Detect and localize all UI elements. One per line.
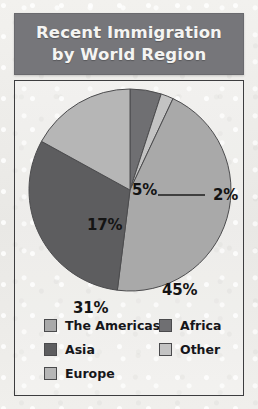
legend-swatch-africa bbox=[159, 319, 172, 332]
legend-column-right: Africa Other bbox=[159, 313, 221, 361]
legend-label-other: Other bbox=[180, 342, 220, 357]
legend-swatch-the-americas bbox=[44, 319, 57, 332]
legend-label-the-americas: The Americas bbox=[65, 318, 160, 333]
legend-label-asia: Asia bbox=[65, 342, 95, 357]
pie-svg bbox=[15, 85, 245, 301]
legend-item-europe[interactable]: Europe bbox=[44, 361, 160, 385]
legend-column-left: The Americas Asia Europe bbox=[44, 313, 160, 385]
pie-area: 45% 31% 17% 5% 2% bbox=[15, 85, 245, 301]
pie-slices bbox=[29, 89, 231, 291]
legend-item-africa[interactable]: Africa bbox=[159, 313, 221, 337]
legend-label-europe: Europe bbox=[65, 366, 115, 381]
legend-item-other[interactable]: Other bbox=[159, 337, 221, 361]
slice-label-africa: 5% bbox=[132, 181, 157, 199]
legend: The Americas Asia Europe Africa Other bbox=[14, 313, 244, 393]
legend-label-africa: Africa bbox=[180, 318, 221, 333]
slice-label-other: 2% bbox=[213, 186, 238, 204]
slice-label-europe: 17% bbox=[87, 216, 122, 234]
pie-chart-figure: Recent Immigration by World Region 45% 3… bbox=[0, 0, 258, 409]
page-title: Recent Immigration by World Region bbox=[36, 22, 222, 66]
title-line-1: Recent Immigration bbox=[36, 23, 222, 42]
slice-label-the-americas: 45% bbox=[162, 281, 197, 299]
chart-title-bar: Recent Immigration by World Region bbox=[14, 13, 244, 75]
legend-swatch-other bbox=[159, 343, 172, 356]
legend-swatch-asia bbox=[44, 343, 57, 356]
legend-item-the-americas[interactable]: The Americas bbox=[44, 313, 160, 337]
title-line-2: by World Region bbox=[52, 45, 207, 64]
legend-swatch-europe bbox=[44, 367, 57, 380]
legend-item-asia[interactable]: Asia bbox=[44, 337, 160, 361]
